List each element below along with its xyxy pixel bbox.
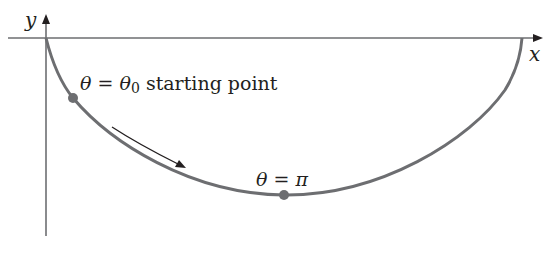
starting-point-label: θ = θ0 starting point [80, 74, 277, 95]
starting-point-text: starting point [146, 72, 278, 94]
direction-arrow [112, 127, 186, 168]
theta0-subscript: 0 [131, 80, 140, 96]
equals-sign: = [98, 72, 114, 94]
y-axis-label: y [25, 10, 36, 30]
theta-symbol: θ [256, 168, 267, 190]
starting-point-marker [68, 93, 78, 103]
x-axis-arrow-icon [533, 34, 543, 42]
bottom-point-label: θ = π [256, 170, 308, 189]
x-axis-label: x [529, 44, 540, 64]
cycloid-diagram [0, 0, 557, 253]
y-axis-arrow-icon [42, 14, 50, 24]
theta0-symbol: θ [119, 72, 130, 94]
equals-sign: = [274, 168, 290, 190]
pi-symbol: π [295, 168, 308, 190]
bottom-point-marker [279, 190, 289, 200]
theta-symbol: θ [80, 72, 91, 94]
x-axis [8, 34, 543, 42]
